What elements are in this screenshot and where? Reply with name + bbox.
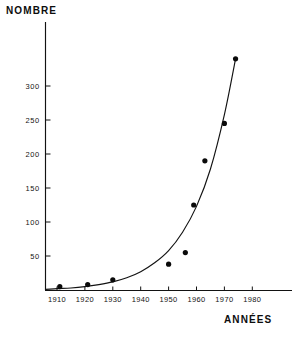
data-point: [85, 282, 90, 287]
x-tick-label: 1960: [182, 295, 212, 304]
data-point: [233, 56, 238, 61]
x-tick-label: 1970: [209, 295, 239, 304]
x-tick-label: 1920: [70, 295, 100, 304]
data-point: [110, 277, 115, 282]
y-tick-label: 300: [12, 82, 40, 91]
plot-area: [0, 0, 304, 339]
data-points: [57, 56, 238, 289]
fitted-curve: [46, 59, 236, 290]
chart-figure: NOMBRE ANNÉES 50100150200250300 19101920…: [0, 0, 304, 339]
x-tick-label: 1940: [126, 295, 156, 304]
data-point: [183, 250, 188, 255]
data-point: [202, 158, 207, 163]
y-tick-label: 100: [12, 218, 40, 227]
y-tick-label: 150: [12, 184, 40, 193]
x-tick-label: 1930: [98, 295, 128, 304]
y-tick-marks: [46, 86, 51, 256]
data-point: [191, 202, 196, 207]
y-tick-label: 250: [12, 116, 40, 125]
y-tick-label: 200: [12, 150, 40, 159]
fitted-curve-path: [46, 59, 236, 290]
y-tick-label: 50: [12, 252, 40, 261]
data-point: [166, 262, 171, 267]
x-tick-label: 1950: [154, 295, 184, 304]
x-tick-label: 1980: [237, 295, 267, 304]
data-point: [222, 121, 227, 126]
x-tick-marks: [57, 287, 252, 291]
data-point: [57, 284, 62, 289]
x-tick-label: 1910: [42, 295, 72, 304]
